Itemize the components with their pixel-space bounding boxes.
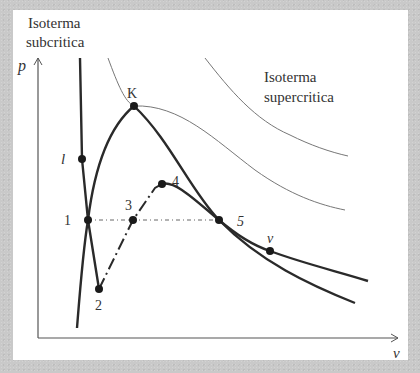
label-1: 1 — [64, 213, 71, 228]
pv-diagram: Isoterma subcritica Isoterma supercritic… — [0, 0, 420, 373]
subcritical-label-line2: subcritica — [26, 34, 85, 50]
label-l: l — [61, 151, 65, 167]
subcritical-isotherm-vapor — [162, 183, 368, 281]
supercritical-label-line1: Isoterma — [264, 69, 317, 85]
label-v: v — [267, 231, 274, 246]
x-axis-label: v — [393, 345, 400, 361]
label-4: 4 — [172, 174, 179, 189]
point-l — [78, 155, 86, 163]
y-axis-label: p — [17, 57, 26, 75]
label-2: 2 — [95, 298, 102, 313]
point-p1 — [84, 216, 92, 224]
point-p4 — [158, 180, 166, 188]
point-p3 — [129, 216, 137, 224]
point-p5 — [215, 216, 223, 224]
point-p2 — [95, 285, 103, 293]
point-v — [266, 247, 274, 255]
label-5: 5 — [237, 214, 244, 229]
supercritical-label-line2: supercritica — [264, 89, 334, 105]
subcritical-label-line1: Isoterma — [28, 15, 81, 31]
point-K — [130, 102, 138, 110]
label-K: K — [127, 86, 137, 101]
label-3: 3 — [125, 198, 132, 213]
state-points — [78, 102, 274, 293]
